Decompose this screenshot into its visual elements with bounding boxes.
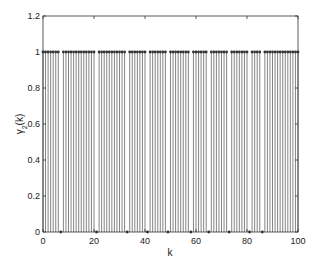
stem-marker xyxy=(276,51,279,54)
stem-marker xyxy=(225,51,228,54)
stem-marker xyxy=(164,51,167,54)
stem-marker xyxy=(174,51,177,54)
stem-marker xyxy=(263,51,266,54)
stem-marker xyxy=(49,51,52,54)
stem-series xyxy=(43,52,298,232)
stem-marker xyxy=(187,51,190,54)
stem-marker xyxy=(110,51,113,54)
stem-marker xyxy=(218,51,221,54)
stem-marker xyxy=(90,51,93,54)
stem-marker xyxy=(136,51,139,54)
stem-marker xyxy=(123,51,126,54)
stem-marker xyxy=(235,51,238,54)
stem-marker xyxy=(67,51,70,54)
stem-marker xyxy=(70,51,73,54)
x-tick-label: 40 xyxy=(140,236,150,246)
stem-marker xyxy=(205,51,208,54)
x-axis-label: k xyxy=(168,247,174,258)
stem-plot: 020406080100 00.20.40.60.811.2 k γ2(k) xyxy=(0,0,320,264)
stem-marker xyxy=(281,51,284,54)
stem-marker xyxy=(230,51,233,54)
y-tick-label: 1.2 xyxy=(27,11,40,21)
x-tick-label: 100 xyxy=(290,236,305,246)
stem-marker xyxy=(212,51,215,54)
stem-marker xyxy=(118,51,121,54)
stem-marker xyxy=(80,51,83,54)
stem-marker xyxy=(223,51,226,54)
stem-marker xyxy=(241,51,244,54)
stem-marker xyxy=(251,51,254,54)
stem-marker xyxy=(72,51,75,54)
stem-marker xyxy=(182,51,185,54)
stem-marker xyxy=(62,51,65,54)
stem-marker xyxy=(77,51,80,54)
stem-marker xyxy=(82,51,85,54)
x-tick-label: 60 xyxy=(191,236,201,246)
stem-marker xyxy=(253,51,256,54)
x-tick-label: 0 xyxy=(40,236,45,246)
stem-marker xyxy=(200,51,203,54)
y-tick-label: 0.6 xyxy=(27,119,40,129)
stem-marker xyxy=(52,51,55,54)
stem-marker xyxy=(113,51,116,54)
stem-marker xyxy=(100,51,103,54)
stem-marker xyxy=(179,51,182,54)
stem-marker xyxy=(65,51,68,54)
stem-marker xyxy=(169,51,172,54)
stem-marker xyxy=(149,51,152,54)
stem-marker xyxy=(144,51,147,54)
stem-marker xyxy=(215,51,218,54)
y-tick-label: 0.2 xyxy=(27,191,40,201)
stem-marker xyxy=(269,51,272,54)
stem-marker xyxy=(128,51,131,54)
stem-marker xyxy=(233,51,236,54)
stem-marker xyxy=(284,51,287,54)
stem-marker xyxy=(172,51,175,54)
stem-marker xyxy=(57,51,60,54)
y-tick-label: 0.4 xyxy=(27,155,40,165)
stem-marker xyxy=(266,51,269,54)
y-axis-label: γ2(k) xyxy=(14,114,28,135)
stem-marker xyxy=(154,51,157,54)
stem-marker xyxy=(258,51,261,54)
stem-marker xyxy=(151,51,154,54)
stem-marker xyxy=(177,51,180,54)
stem-marker xyxy=(108,51,111,54)
stem-marker xyxy=(192,51,195,54)
stem-marker xyxy=(202,51,205,54)
stem-marker xyxy=(289,51,292,54)
stem-marker xyxy=(292,51,295,54)
stem-marker xyxy=(210,51,213,54)
y-tick-label: 0.8 xyxy=(27,83,40,93)
stem-marker xyxy=(98,51,101,54)
stem-marker xyxy=(103,51,106,54)
stem-marker xyxy=(161,51,164,54)
stem-marker xyxy=(184,51,187,54)
stem-marker xyxy=(195,51,198,54)
y-tick-label: 0 xyxy=(35,227,40,237)
stem-marker xyxy=(274,51,277,54)
stem-marker xyxy=(220,51,223,54)
stem-marker xyxy=(159,51,162,54)
y-axis-label-suffix: (k) xyxy=(14,114,25,126)
y-tick-label: 1 xyxy=(35,47,40,57)
stem-marker xyxy=(238,51,241,54)
stem-marker xyxy=(75,51,78,54)
stem-marker xyxy=(121,51,124,54)
stem-marker xyxy=(156,51,159,54)
stem-marker xyxy=(271,51,274,54)
stem-marker xyxy=(105,51,108,54)
stem-marker xyxy=(54,51,57,54)
stem-marker xyxy=(243,51,246,54)
stem-marker xyxy=(93,51,96,54)
stem-marker xyxy=(197,51,200,54)
stem-marker xyxy=(85,51,88,54)
stem-marker xyxy=(131,51,134,54)
x-tick-label: 80 xyxy=(242,236,252,246)
stem-marker xyxy=(133,51,136,54)
stem-marker xyxy=(279,51,282,54)
stem-marker xyxy=(246,51,249,54)
stem-marker xyxy=(47,51,50,54)
stem-marker xyxy=(139,51,142,54)
stem-marker xyxy=(116,51,119,54)
